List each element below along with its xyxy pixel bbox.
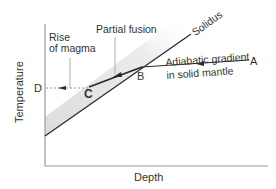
rise-label-line2: of magma	[49, 43, 96, 54]
partial-fusion-label: Partial fusion	[96, 24, 157, 35]
x-axis-label: Depth	[134, 172, 163, 183]
point-c-label: C	[84, 89, 93, 100]
point-b-label: B	[137, 71, 144, 82]
point-d-label: D	[34, 83, 42, 94]
y-axis-label: Temperature	[14, 61, 25, 123]
arrow-icon	[58, 86, 66, 90]
rise-label: Rise of magma	[49, 32, 96, 54]
point-a-label: A	[250, 56, 257, 67]
